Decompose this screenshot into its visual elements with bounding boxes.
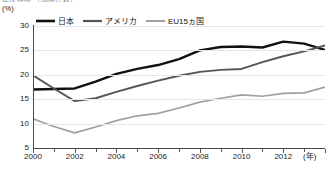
x-axis-unit-label: (年)	[303, 152, 316, 161]
legend-swatch-eu15	[146, 18, 165, 24]
y-tick-5: 5	[3, 144, 29, 152]
x-tick-2008: 2008	[191, 152, 209, 161]
legend-label-eu15: EU15ヵ国	[168, 17, 204, 26]
legend-item-eu15: EU15ヵ国	[146, 17, 204, 26]
tickmark-2003	[96, 149, 97, 152]
legend-swatch-america	[83, 18, 102, 24]
legend-label-america: アメリカ	[105, 17, 137, 26]
chart-legend: 日本 アメリカ EU15ヵ国	[36, 15, 204, 27]
y-tick-15: 15	[3, 95, 29, 103]
tickmark-2014	[325, 149, 326, 153]
legend-item-america: アメリカ	[83, 17, 137, 26]
series-line-EU15ヵ国	[33, 87, 325, 133]
y-tick-30: 30	[3, 22, 29, 30]
y-axis-tick-labels: 30 25 20 15 10 5	[0, 0, 29, 175]
tickmark-2007	[179, 149, 180, 152]
gridline-20	[33, 75, 325, 76]
legend-swatch-japan	[36, 18, 55, 24]
y-tick-20: 20	[3, 71, 29, 79]
series-line-日本	[33, 42, 325, 90]
tickmark-2005	[137, 149, 138, 152]
y-tick-25: 25	[3, 46, 29, 54]
gridline-10	[33, 124, 325, 125]
tickmark-2009	[221, 149, 222, 152]
y-axis-line	[33, 25, 34, 149]
legend-item-japan: 日本	[36, 17, 74, 26]
x-tick-2002: 2002	[66, 152, 84, 161]
chart-container: 年次推移 （国際比較） (%) 30 25 20 15 10 5 2000 20…	[0, 0, 332, 175]
x-tick-2006: 2006	[149, 152, 167, 161]
gridline-25	[33, 50, 325, 51]
x-tick-2000: 2000	[24, 152, 42, 161]
x-tick-2010: 2010	[233, 152, 251, 161]
tickmark-2011	[262, 149, 263, 152]
series-lines	[33, 26, 325, 148]
x-tick-2004: 2004	[107, 152, 125, 161]
gridline-15	[33, 99, 325, 100]
legend-label-japan: 日本	[58, 17, 74, 26]
plot-area	[33, 26, 325, 148]
tickmark-2001	[54, 149, 55, 152]
x-tick-2012: 2012	[274, 152, 292, 161]
y-tick-10: 10	[3, 120, 29, 128]
